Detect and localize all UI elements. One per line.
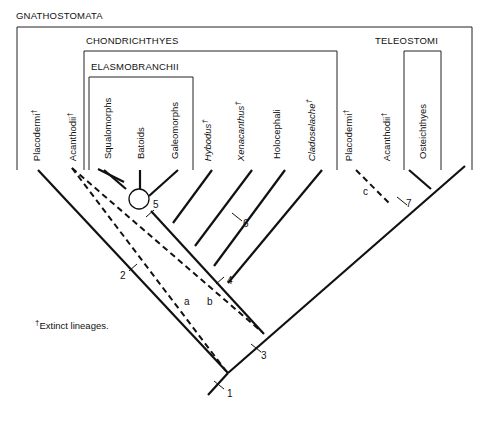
group-elasmobranchii: ELASMOBRANCHII	[91, 61, 179, 72]
lineage-label-c: c	[363, 186, 368, 197]
node-label-5: 5	[153, 199, 159, 210]
branch-acanthodii-right	[409, 170, 431, 189]
tick-6	[232, 213, 242, 221]
dashed-lineage-c	[356, 170, 391, 205]
group-teleostomi: TELEOSTOMI	[375, 35, 438, 46]
footnote-extinct: †Extinct lineages.	[35, 318, 109, 331]
taxon-acanthodii-left: Acanthodii†	[65, 112, 78, 161]
taxon-galeomorphs: Galeomorphs	[169, 102, 180, 159]
node-label-2: 2	[120, 270, 126, 281]
branch-hybodus	[173, 170, 212, 223]
taxon-xenacanthus: Xenacanthus†	[233, 101, 246, 161]
lineage-label-b: b	[207, 296, 213, 307]
tick-4	[216, 277, 224, 284]
branch-galeomorphs	[149, 170, 178, 196]
group-chondrichthyes: CHONDRICHTHYES	[86, 35, 179, 46]
node-label-6: 6	[243, 218, 249, 229]
taxon-hybodus: Hybodus†	[200, 119, 213, 161]
cladogram-lines	[0, 0, 487, 422]
taxon-holocephali: Holocephali	[271, 109, 282, 159]
node-label-4: 4	[227, 275, 233, 286]
taxon-osteichthyes: Osteichthyes	[417, 104, 428, 159]
node-label-1: 1	[227, 388, 233, 399]
polytomy-circle	[129, 189, 149, 209]
taxon-squalomorphs: Squalomorphs	[102, 98, 113, 159]
lineage-label-a: a	[184, 296, 190, 307]
taxon-cladoselache: Cladoselache†	[304, 99, 317, 161]
taxon-batoids: Batoids	[135, 127, 146, 159]
taxon-acanthodii-right: Acanthodii†	[379, 112, 392, 161]
node-label-3: 3	[261, 350, 267, 361]
group-gnathostomata: GNATHOSTOMATA	[16, 10, 103, 21]
taxon-placodermi-left: Placodermi†	[29, 109, 42, 161]
branch-holocephali	[214, 170, 285, 266]
taxon-placodermi-right: Placodermi†	[341, 109, 354, 161]
node-label-7: 7	[406, 198, 412, 209]
branch-teleostomi-main	[228, 166, 465, 373]
